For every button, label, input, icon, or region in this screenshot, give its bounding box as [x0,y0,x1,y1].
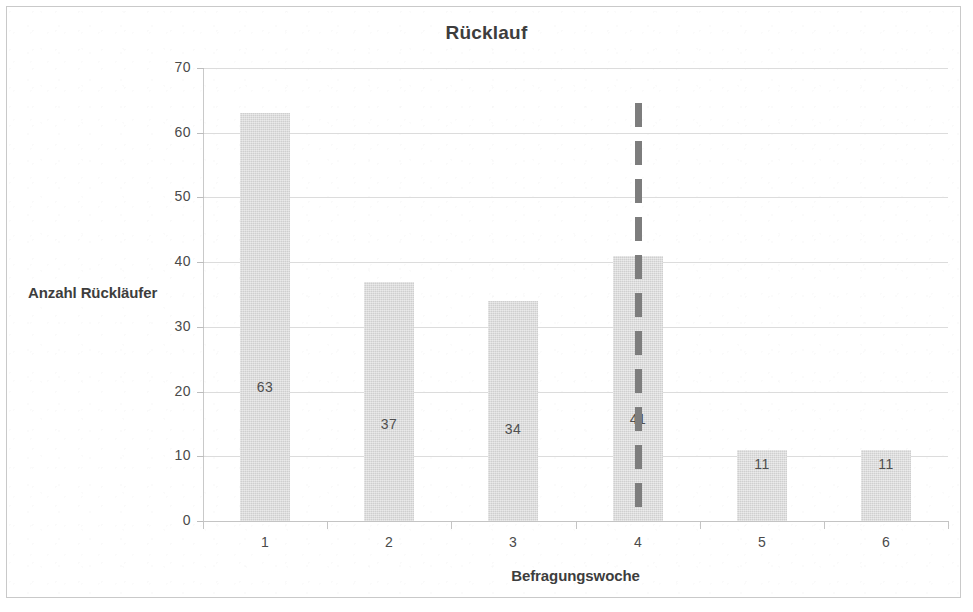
x-tick-mark [700,521,701,529]
y-axis-title: Anzahl Rückläufer [28,284,188,301]
gridline [203,262,948,263]
y-tick-mark [197,327,204,328]
chart-title: Rücklauf [0,22,973,44]
y-tick-mark [197,392,204,393]
gridline [203,133,948,134]
y-tick-label: 30 [147,318,191,334]
y-tick-label: 40 [147,253,191,269]
bar-value-label: 11 [735,456,789,472]
x-tick-label: 5 [742,534,782,550]
bar-value-label: 63 [238,379,292,395]
y-tick-mark [197,68,204,69]
gridline [203,68,948,69]
bar [240,113,290,521]
bar-value-label: 11 [859,456,913,472]
y-axis-line [203,68,204,522]
y-tick-mark [197,456,204,457]
y-tick-mark [197,197,204,198]
divider-dashed-line [635,103,642,521]
x-tick-mark [451,521,452,529]
y-tick-label: 50 [147,188,191,204]
scan-grain-overlay [7,7,960,597]
gridline [203,327,948,328]
gridline [203,392,948,393]
bar [364,282,414,521]
y-tick-label: 60 [147,124,191,140]
y-tick-label: 0 [147,512,191,528]
bar [488,301,538,521]
x-tick-mark [948,521,949,529]
x-tick-label: 3 [493,534,533,550]
y-tick-label: 70 [147,59,191,75]
bar-value-label: 37 [362,416,416,432]
x-axis-title: Befragungswoche [203,567,948,584]
x-tick-mark [824,521,825,529]
x-tick-label: 4 [618,534,658,550]
y-tick-mark [197,133,204,134]
x-tick-label: 2 [369,534,409,550]
y-tick-mark [197,262,204,263]
gridline [203,197,948,198]
x-tick-mark [327,521,328,529]
x-tick-label: 1 [245,534,285,550]
x-tick-mark [203,521,204,529]
gridline [203,456,948,457]
bar-value-label: 34 [486,421,540,437]
chart-frame [6,6,961,598]
y-tick-label: 10 [147,447,191,463]
y-tick-label: 20 [147,383,191,399]
x-tick-label: 6 [866,534,906,550]
x-tick-mark [576,521,577,529]
